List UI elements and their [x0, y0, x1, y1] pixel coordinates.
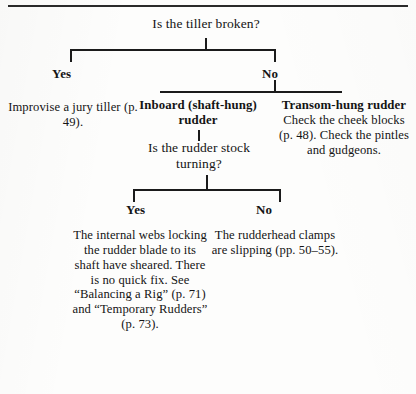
connector-level1-bar — [70, 49, 276, 51]
level2-no-label: No — [256, 202, 272, 218]
connector-level1-no-drop — [274, 49, 276, 62]
node-transom-rudder: Transom-hung rudder Check the cheek bloc… — [276, 98, 412, 158]
root-question: Is the tiller broken? — [116, 16, 296, 32]
node-inboard-rudder-title: Inboard (shaft-hung) rudder — [136, 98, 260, 128]
leaf-internal-webs-sheared: The internal webs locking the rudder bla… — [72, 228, 208, 332]
connector-level1-yes-drop — [70, 49, 72, 62]
level2-question: Is the rudder stock turning? — [140, 140, 258, 172]
level1-yes-label: Yes — [52, 66, 71, 82]
node-inboard-rudder: Inboard (shaft-hung) rudder — [136, 98, 260, 128]
leaf-rudderhead-clamps-slipping: The rudderhead clamps are slipping (pp. … — [210, 228, 340, 258]
paper-texture-overlay — [0, 0, 416, 394]
connector-level3-yes-drop — [133, 189, 135, 202]
leaf-improvise-jury-tiller: Improvise a jury tiller (p. 49). — [8, 100, 138, 130]
connector-level3-no-drop — [279, 189, 281, 202]
page-top-rule — [8, 5, 408, 7]
level2-yes-label: Yes — [126, 202, 145, 218]
connector-level2-bar — [160, 91, 342, 93]
connector-level3-bar — [133, 189, 281, 191]
node-transom-rudder-body: Check the cheek blocks (p. 48). Check th… — [276, 113, 412, 158]
connector-level2-stem — [206, 175, 208, 190]
flowchart-page: Is the tiller broken? Yes No Improvise a… — [0, 0, 416, 394]
node-transom-rudder-title: Transom-hung rudder — [276, 98, 412, 113]
